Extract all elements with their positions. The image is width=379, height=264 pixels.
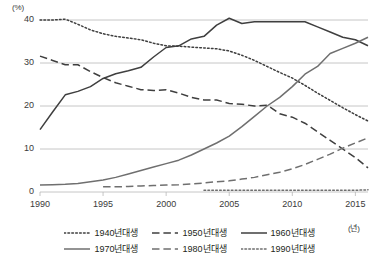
legend-label: 1940년대생: [94, 226, 138, 239]
legend-item-1960년대생[interactable]: 1960년대생: [241, 226, 315, 239]
legend-swatch-solid: [64, 245, 90, 253]
legend-swatch-dotted: [64, 229, 90, 237]
legend-swatch-dotted: [241, 245, 267, 253]
legend-label: 1970년대생: [94, 242, 138, 255]
legend-label: 1950년대생: [182, 226, 226, 239]
legend-item-1950년대생[interactable]: 1950년대생: [152, 226, 226, 239]
data-series-layer: [40, 18, 368, 190]
series-line-1980년대생: [103, 138, 368, 187]
legend-swatch-solid: [241, 229, 267, 237]
legend-item-1990년대생[interactable]: 1990년대생: [241, 242, 315, 255]
legend-item-1940년대생[interactable]: 1940년대생: [64, 226, 138, 239]
legend-label: 1990년대생: [271, 242, 315, 255]
line-chart: (%) (년) 403020100 1990199520002005201020…: [0, 0, 379, 264]
chart-legend: 1940년대생1950년대생1960년대생1970년대생1980년대생1990년…: [0, 226, 379, 255]
gridlines: [40, 20, 368, 192]
legend-swatch-dashed: [152, 245, 178, 253]
series-line-1950년대생: [40, 56, 368, 168]
legend-row-2: 1970년대생1980년대생1990년대생: [64, 242, 314, 255]
legend-row-1: 1940년대생1950년대생1960년대생: [64, 226, 314, 239]
legend-item-1980년대생[interactable]: 1980년대생: [152, 242, 226, 255]
legend-label: 1980년대생: [182, 242, 226, 255]
legend-item-1970년대생[interactable]: 1970년대생: [64, 242, 138, 255]
legend-swatch-dashed: [152, 229, 178, 237]
legend-label: 1960년대생: [271, 226, 315, 239]
series-line-1970년대생: [40, 37, 368, 185]
plot-area: [0, 0, 379, 264]
x-axis-tick-marks: [40, 192, 355, 196]
series-line-1960년대생: [40, 18, 368, 129]
